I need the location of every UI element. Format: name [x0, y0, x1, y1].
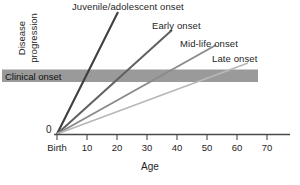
- series-label-midlife: Mid-life onset: [180, 38, 238, 49]
- x-tick-label-50: 50: [192, 142, 222, 153]
- x-tick-label-60: 60: [222, 142, 252, 153]
- origin-label: 0: [46, 124, 52, 135]
- x-tick-label-birth: Birth: [37, 142, 77, 153]
- x-tick-label-20: 20: [102, 142, 132, 153]
- series-label-juvenile: Juvenile/adolescent onset: [72, 1, 184, 12]
- x-tick-label-70: 70: [252, 142, 282, 153]
- x-axis-ticks: [57, 135, 267, 141]
- series-line-midlife: [57, 45, 216, 134]
- x-axis-label: Age: [0, 161, 300, 172]
- y-axis-label-line1: Disease: [16, 6, 28, 70]
- y-axis-label-line2: progression: [28, 6, 40, 70]
- series-label-late: Late onset: [212, 53, 257, 64]
- x-tick-label-10: 10: [72, 142, 102, 153]
- clinical-onset-label: Clinical onset: [5, 71, 62, 82]
- x-tick-label-40: 40: [162, 142, 192, 153]
- y-axis-label: Disease progression: [16, 6, 76, 70]
- disease-progression-chart: Disease progression 0 Clinical onset Juv…: [0, 0, 300, 185]
- x-tick-label-30: 30: [132, 142, 162, 153]
- series-label-early: Early onset: [152, 20, 201, 31]
